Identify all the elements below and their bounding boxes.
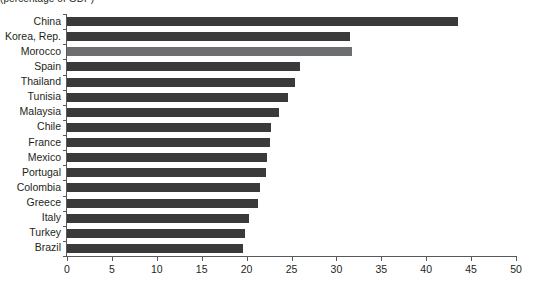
x-axis-tick-label: 20: [241, 263, 253, 275]
y-tick: [63, 135, 67, 136]
y-axis-label: Colombia: [1, 180, 61, 195]
bar-tunisia: [67, 93, 288, 102]
x-axis-tick-label: 45: [465, 263, 477, 275]
x-axis-tick-label: 30: [331, 263, 343, 275]
y-tick: [63, 44, 67, 45]
bar-korea-rep: [67, 32, 350, 41]
x-axis-tick-label: 25: [286, 263, 298, 275]
y-tick: [63, 59, 67, 60]
x-tick: [381, 256, 382, 261]
y-tick: [63, 29, 67, 30]
bar-thailand: [67, 78, 295, 87]
bar-italy: [67, 214, 249, 223]
y-tick: [63, 241, 67, 242]
y-axis-label: Korea, Rep.: [1, 29, 61, 44]
y-axis-label: Portugal: [1, 165, 61, 180]
y-tick: [63, 105, 67, 106]
x-axis-tick-label: 40: [420, 263, 432, 275]
x-axis-tick-label: 35: [375, 263, 387, 275]
y-axis-label: Turkey: [1, 225, 61, 240]
y-axis-label: Morocco: [1, 44, 61, 59]
bar-greece: [67, 199, 258, 208]
bar-mexico: [67, 153, 267, 162]
x-tick: [112, 256, 113, 261]
y-tick: [63, 14, 67, 15]
x-tick: [247, 256, 248, 261]
x-axis-tick-label: 0: [64, 263, 70, 275]
y-axis-label: Italy: [1, 210, 61, 225]
bar-portugal: [67, 168, 266, 177]
x-tick: [67, 256, 68, 261]
x-tick: [426, 256, 427, 261]
bar-chile: [67, 123, 271, 132]
x-axis-tick-label: 15: [196, 263, 208, 275]
bar-brazil: [67, 244, 243, 253]
x-tick: [516, 256, 517, 261]
x-tick: [471, 256, 472, 261]
y-tick: [63, 226, 67, 227]
y-tick: [63, 180, 67, 181]
x-tick: [157, 256, 158, 261]
y-tick: [63, 165, 67, 166]
y-tick: [63, 120, 67, 121]
y-axis-label: Spain: [1, 59, 61, 74]
x-tick: [336, 256, 337, 261]
y-axis-label: France: [1, 135, 61, 150]
x-tick: [292, 256, 293, 261]
y-axis-label: China: [1, 14, 61, 29]
plot-area: ChinaKorea, Rep.MoroccoSpainThailandTuni…: [67, 14, 516, 256]
y-axis-label: Brazil: [1, 240, 61, 255]
y-axis-label: Tunisia: [1, 89, 61, 104]
bar-turkey: [67, 229, 245, 238]
bar-malaysia: [67, 108, 279, 117]
y-axis-label: Chile: [1, 119, 61, 134]
y-tick: [63, 196, 67, 197]
y-tick: [63, 150, 67, 151]
bar-france: [67, 138, 270, 147]
y-axis-label: Malaysia: [1, 104, 61, 119]
y-axis-label: Thailand: [1, 74, 61, 89]
y-axis-label: Greece: [1, 195, 61, 210]
chart-subtitle: (percentage of GDP): [0, 0, 94, 4]
bar-morocco: [67, 47, 352, 56]
y-tick: [63, 75, 67, 76]
x-tick: [202, 256, 203, 261]
y-axis-label: Mexico: [1, 150, 61, 165]
bar-spain: [67, 62, 300, 71]
x-axis-tick-label: 50: [510, 263, 522, 275]
bar-china: [67, 17, 458, 26]
y-tick: [63, 90, 67, 91]
x-axis-tick-label: 5: [109, 263, 115, 275]
x-axis-tick-label: 10: [151, 263, 163, 275]
bar-colombia: [67, 183, 260, 192]
bar-chart: (percentage of GDP) ChinaKorea, Rep.Moro…: [0, 0, 535, 286]
y-tick: [63, 211, 67, 212]
